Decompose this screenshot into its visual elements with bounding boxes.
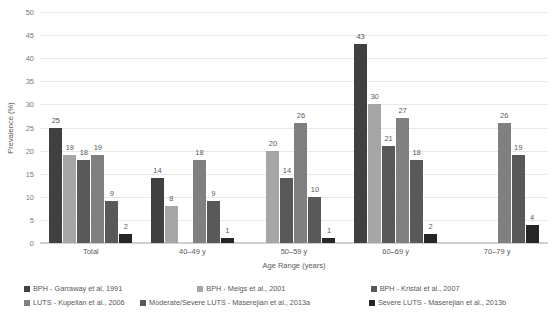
bar-value-label: 14 <box>283 167 291 175</box>
bar-group: 1481891 <box>142 12 244 243</box>
bar-slot: 2 <box>424 12 437 243</box>
legend-label: BPH - Kristal et al., 2007 <box>380 285 460 292</box>
bar[interactable]: 1 <box>322 238 335 243</box>
legend-label: BPH - Garraway et al, 1991 <box>33 285 122 292</box>
bar[interactable]: 18 <box>410 160 423 243</box>
y-axis-tick-label: 25 <box>10 123 34 132</box>
bar[interactable]: 4 <box>526 225 539 243</box>
bar-value-label: 18 <box>195 149 203 157</box>
bar[interactable]: 10 <box>308 197 321 243</box>
bar-value-label: 19 <box>94 144 102 152</box>
bar-value-label: 19 <box>66 144 74 152</box>
bar-slot <box>179 12 192 243</box>
legend-label: BPH - Meigs et al., 2001 <box>206 285 285 292</box>
bar-value-label: 43 <box>356 33 364 41</box>
legend-item[interactable]: Moderate/Severe LUTS - Maserejian et al.… <box>140 299 369 306</box>
bar[interactable]: 9 <box>105 201 118 243</box>
legend-color-swatch <box>371 286 377 292</box>
bar[interactable]: 2 <box>424 234 437 243</box>
bar-slot: 9 <box>207 12 220 243</box>
bar-slot: 1 <box>221 12 234 243</box>
bar-value-label: 27 <box>398 107 406 115</box>
bar[interactable]: 21 <box>382 146 395 243</box>
bar[interactable]: 2 <box>119 234 132 243</box>
x-axis-label: Age Range (years) <box>40 261 548 270</box>
chart-legend: BPH - Garraway et al, 1991BPH - Meigs et… <box>24 285 544 314</box>
bar-slot: 20 <box>266 12 279 243</box>
bar-group: 43302127182 <box>345 12 447 243</box>
bar-slot: 30 <box>368 12 381 243</box>
legend-color-swatch <box>140 300 146 306</box>
bar-slot <box>252 12 265 243</box>
bar[interactable]: 30 <box>368 104 381 243</box>
legend-label: Moderate/Severe LUTS - Maserejian et al.… <box>149 299 310 306</box>
y-axis-tick-label: 40 <box>10 54 34 63</box>
bar-value-label: 19 <box>514 144 522 152</box>
bar[interactable]: 43 <box>354 44 367 243</box>
bar[interactable]: 26 <box>294 123 307 243</box>
y-axis-tick-label: 35 <box>10 77 34 86</box>
bar-slot: 25 <box>49 12 62 243</box>
y-axis-tick-label: 45 <box>10 31 34 40</box>
bar[interactable]: 19 <box>63 155 76 243</box>
bar[interactable]: 1 <box>221 238 234 243</box>
legend-label: Severe LUTS - Maserejian et al., 2013b <box>378 299 506 306</box>
bar[interactable]: 9 <box>207 201 220 243</box>
x-axis-category-label: 60–69 y <box>345 247 447 256</box>
legend-item[interactable]: BPH - Kristal et al., 2007 <box>371 285 544 292</box>
bar-slot <box>470 12 483 243</box>
bar-group: 2519181992 <box>40 12 142 243</box>
bar-slot <box>484 12 497 243</box>
bar-slot: 4 <box>526 12 539 243</box>
x-axis-category-labels: Total40–49 y50–59 y60–69 y70–79 y <box>40 247 548 256</box>
legend-item[interactable]: BPH - Meigs et al., 2001 <box>197 285 370 292</box>
bar-slot: 1 <box>322 12 335 243</box>
legend-item[interactable]: LUTS - Kupelian et al., 2006 <box>24 299 140 306</box>
bar[interactable]: 14 <box>280 178 293 243</box>
bar-value-label: 20 <box>269 140 277 148</box>
y-axis-tick-label: 5 <box>10 215 34 224</box>
bar-groups: 2519181992148189120142610143302127182261… <box>40 12 548 243</box>
legend-item[interactable]: Severe LUTS - Maserejian et al., 2013b <box>369 299 542 306</box>
plot-area: 2519181992148189120142610143302127182261… <box>40 12 548 243</box>
y-axis-tick-label: 15 <box>10 169 34 178</box>
bar-slot: 19 <box>63 12 76 243</box>
bar-value-label: 10 <box>311 186 319 194</box>
bar[interactable]: 26 <box>498 123 511 243</box>
bar[interactable]: 27 <box>396 118 409 243</box>
bar-value-label: 2 <box>124 223 128 231</box>
bar[interactable]: 25 <box>49 128 62 244</box>
bar[interactable]: 19 <box>512 155 525 243</box>
bar-value-label: 25 <box>52 117 60 125</box>
bar-slot: 10 <box>308 12 321 243</box>
bar-slot: 8 <box>165 12 178 243</box>
bar-value-label: 9 <box>110 190 114 198</box>
x-axis-category-label: 70–79 y <box>446 247 548 256</box>
legend-item[interactable]: BPH - Garraway et al, 1991 <box>24 285 197 292</box>
bar[interactable]: 14 <box>151 178 164 243</box>
bar-slot: 19 <box>512 12 525 243</box>
y-axis-tick-label: 0 <box>10 239 34 248</box>
bar-group: 26194 <box>446 12 548 243</box>
legend-label: LUTS - Kupelian et al., 2006 <box>33 299 125 306</box>
bar[interactable]: 18 <box>77 160 90 243</box>
bar-value-label: 18 <box>412 149 420 157</box>
bar[interactable]: 8 <box>165 206 178 243</box>
prevalence-bar-chart: Prevalence (%) 2519181992148189120142610… <box>0 0 554 317</box>
bar-slot: 26 <box>498 12 511 243</box>
bar[interactable]: 19 <box>91 155 104 243</box>
x-axis-category-label: Total <box>40 247 142 256</box>
bar[interactable]: 18 <box>193 160 206 243</box>
y-axis-tick-label: 10 <box>10 192 34 201</box>
bar-value-label: 21 <box>384 135 392 143</box>
bar-value-label: 1 <box>225 227 229 235</box>
bar-slot: 18 <box>193 12 206 243</box>
x-axis-category-label: 50–59 y <box>243 247 345 256</box>
bar-slot <box>456 12 469 243</box>
bar[interactable]: 20 <box>266 151 279 243</box>
bar-value-label: 8 <box>169 195 173 203</box>
y-axis-tick-label: 30 <box>10 100 34 109</box>
x-axis-category-label: 40–49 y <box>142 247 244 256</box>
y-axis-tick-label: 50 <box>10 8 34 17</box>
bar-slot: 14 <box>151 12 164 243</box>
